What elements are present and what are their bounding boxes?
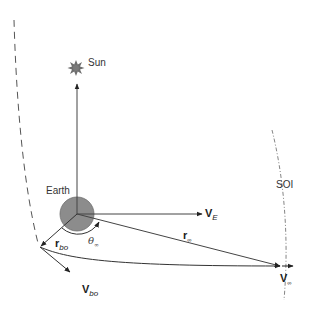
sun-label: Sun bbox=[88, 58, 106, 68]
soi-label: SOI bbox=[276, 180, 293, 190]
theta-inf-label: θ∞ bbox=[88, 236, 99, 246]
r-bo-label: rbo bbox=[55, 238, 68, 249]
r-infinity-line bbox=[77, 214, 280, 266]
earth-label: Earth bbox=[46, 186, 70, 196]
v-e-label: VE bbox=[205, 208, 218, 219]
r-inf-label: r∞ bbox=[183, 230, 192, 241]
dashed-orbit-curve bbox=[14, 20, 38, 243]
v-bo-label: Vbo bbox=[82, 284, 98, 295]
sun-icon bbox=[68, 60, 85, 76]
v-inf-label: V∞ bbox=[280, 273, 292, 284]
hyperbolic-departure-diagram bbox=[0, 0, 312, 309]
